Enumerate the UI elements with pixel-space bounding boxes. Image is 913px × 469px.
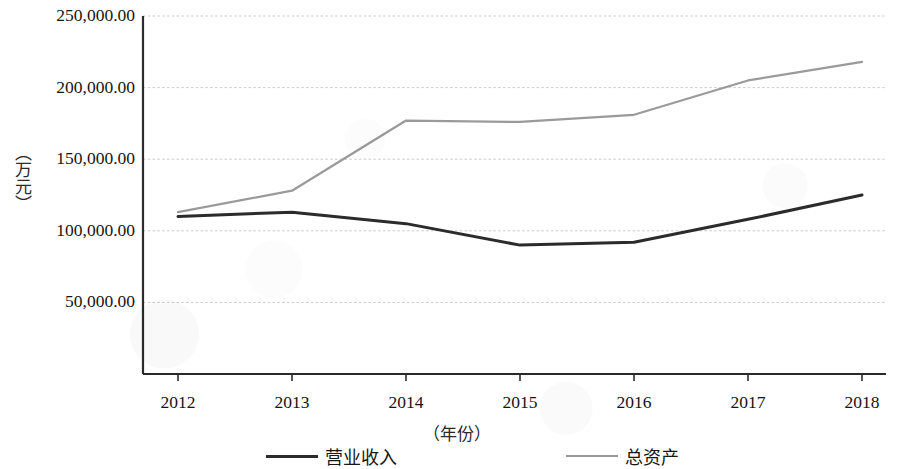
legend-line-swatch-icon (266, 455, 318, 458)
y-axis-tick-label: 200,000.00 (33, 79, 135, 97)
gridlines-group (143, 16, 886, 302)
y-axis-tick-label: 150,000.00 (33, 150, 135, 168)
legend-label: 营业收入 (325, 443, 397, 469)
x-axis-title: （年份） (0, 420, 913, 445)
legend-line-swatch-icon (566, 455, 618, 457)
y-axis-tick-label: 100,000.00 (33, 222, 135, 240)
y-axis-tick-label: 250,000.00 (33, 7, 135, 25)
x-axis-tick-label: 2017 (713, 394, 783, 412)
x-axis-tick-label: 2016 (599, 394, 669, 412)
y-axis-title: （万元） (4, 144, 30, 212)
x-axis-tick-label: 2013 (257, 394, 327, 412)
series-line-total-assets (178, 62, 862, 212)
x-axis-tick-label: 2018 (827, 394, 897, 412)
y-axis-tick-label: 50,000.00 (33, 293, 135, 311)
chart-legend: 营业收入总资产 (0, 443, 913, 464)
legend-entry-total-assets[interactable]: 总资产 (566, 443, 679, 469)
data-series-group (178, 62, 862, 245)
x-axis-tick-label: 2015 (485, 394, 555, 412)
series-line-revenue (178, 195, 862, 245)
x-axis-tick-label: 2012 (143, 394, 213, 412)
axes-group (143, 16, 886, 374)
legend-entry-revenue[interactable]: 营业收入 (266, 443, 397, 469)
x-axis-tick-label: 2014 (371, 394, 441, 412)
legend-label: 总资产 (625, 443, 679, 469)
